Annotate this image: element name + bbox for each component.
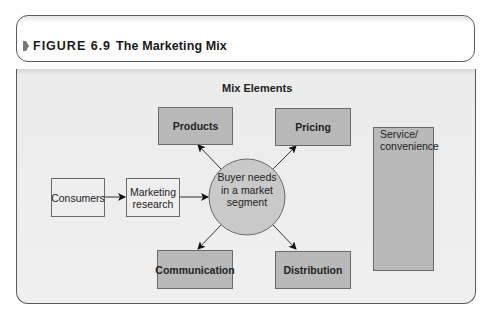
- service-label-line1: Service/: [380, 128, 418, 140]
- arrow-to-distribution: [273, 225, 296, 249]
- service-label-line2: convenience: [380, 140, 439, 152]
- arrow-to-pricing: [273, 146, 296, 169]
- research-label-line1: Marketing: [130, 186, 176, 198]
- consumers-box: Consumers: [51, 178, 105, 217]
- buyer-needs-line2: in a market: [209, 184, 285, 197]
- products-box: Products: [158, 107, 233, 145]
- buyer-needs-line1: Buyer needs: [209, 171, 285, 184]
- communication-box: Communication: [157, 250, 233, 289]
- distribution-label: Distribution: [284, 264, 343, 276]
- research-label-line2: research: [133, 198, 174, 210]
- arrow-to-products: [198, 145, 221, 169]
- distribution-box: Distribution: [275, 251, 351, 289]
- buyer-needs-line3: segment: [209, 196, 285, 209]
- pricing-box: Pricing: [275, 108, 351, 146]
- marketing-research-box: Marketing research: [126, 178, 180, 217]
- arrow-to-communication: [198, 225, 221, 249]
- buyer-needs-text: Buyer needs in a market segment: [209, 171, 285, 209]
- pricing-label: Pricing: [295, 121, 331, 133]
- communication-label: Communication: [155, 264, 234, 276]
- products-label: Products: [173, 120, 219, 132]
- service-convenience-box: Service/ convenience: [373, 127, 434, 271]
- consumers-label: Consumers: [51, 192, 105, 204]
